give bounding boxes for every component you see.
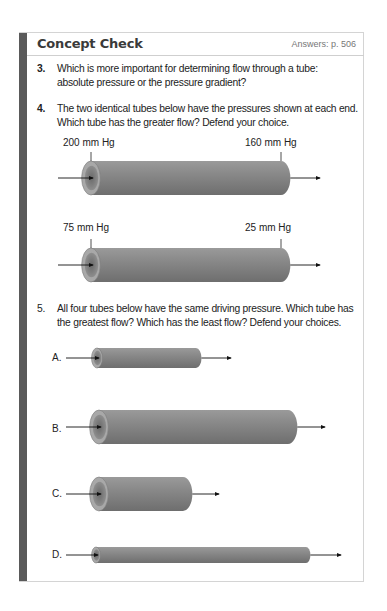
q4-tube-2-body — [91, 248, 290, 282]
tube-diagrams — [0, 0, 387, 611]
q4-tube-1-body — [91, 161, 290, 195]
tube-b-body — [99, 410, 297, 444]
tube-d-body — [96, 547, 310, 563]
tube-c-body — [99, 477, 192, 511]
tube-a-body — [97, 348, 202, 368]
